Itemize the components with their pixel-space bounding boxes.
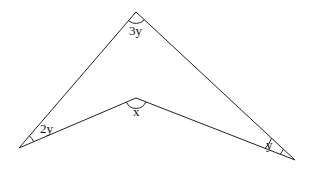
angle-label-top: 3y bbox=[129, 23, 143, 38]
angle-label-middle: x bbox=[133, 104, 140, 119]
angle-arc-left bbox=[29, 136, 33, 142]
edge-top-left bbox=[19, 12, 136, 148]
arrowhead-diagram: 3y 2y x y bbox=[0, 0, 311, 175]
angle-arc-right-inner bbox=[280, 149, 283, 154]
angle-label-right: y bbox=[266, 137, 273, 152]
edge-left-middle bbox=[19, 98, 136, 148]
angle-label-left: 2y bbox=[40, 121, 54, 136]
